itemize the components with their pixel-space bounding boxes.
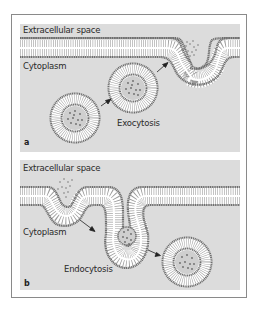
label-extracellular-space: Extracellular space: [23, 163, 100, 173]
arrow-vesicle1-to-vesicle2-icon: [101, 99, 111, 106]
vesicle-1: [50, 93, 100, 143]
label-endocytosis: Endocytosis: [64, 264, 113, 274]
label-extracellular-space: Extracellular space: [23, 25, 100, 35]
panel-exocytosis: Extracellular space Cytoplasm Exocytosis…: [20, 24, 240, 152]
arrow-invagination-to-vesicle-icon: [148, 250, 161, 257]
label-cytoplasm: Cytoplasm: [23, 227, 66, 237]
invagination-cargo: [118, 227, 136, 245]
panel-endocytosis: Extracellular space Cytoplasm Endocytosi…: [20, 160, 240, 290]
endocytic-vesicle: [162, 237, 212, 287]
label-exocytosis: Exocytosis: [117, 118, 160, 128]
panel-tag-b: b: [24, 279, 30, 288]
arrow-pit-to-invagination-icon: [80, 220, 95, 232]
extracellular-cargo: [57, 178, 73, 198]
vesicle-2: [108, 63, 158, 113]
exocytosis-diagram: [20, 24, 240, 152]
label-cytoplasm: Cytoplasm: [23, 61, 66, 71]
arrow-vesicle2-to-membrane-icon: [157, 63, 168, 73]
endocytosis-diagram: [20, 160, 240, 290]
panel-tag-a: a: [24, 138, 29, 147]
